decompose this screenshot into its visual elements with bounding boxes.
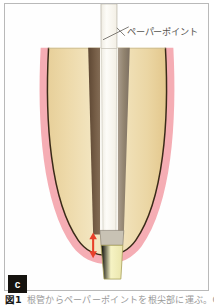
illustration-panel: ペーパーポイント xyxy=(4,3,209,291)
paper-point-label: ペーパーポイント xyxy=(127,26,197,37)
figure-caption: 図1 根管からペーパーポイントを根尖部に運ぶ。Oリン xyxy=(5,295,214,305)
paper-point-exposed-segment xyxy=(101,4,117,49)
tooth-cross-section-illustration xyxy=(5,4,208,290)
canal-plug-band xyxy=(100,230,124,245)
panel-letter-badge: c xyxy=(8,275,27,293)
apical-region xyxy=(101,245,123,279)
caption-figure-number: 図1 xyxy=(5,295,22,305)
figure-root: ペーパーポイント c 図1 根管からペーパーポイントを根尖部に運ぶ。Oリン xyxy=(0,0,214,305)
caption-body-text: 根管からペーパーポイントを根尖部に運ぶ。Oリン xyxy=(27,295,214,305)
